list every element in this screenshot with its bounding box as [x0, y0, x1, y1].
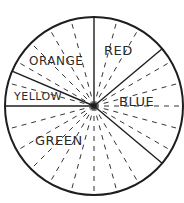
segment-label-yellow: YELLOW — [13, 90, 62, 103]
dashed-spoke — [8, 106, 94, 129]
dashed-spoke — [94, 106, 117, 192]
segment-label-red: RED — [104, 43, 133, 58]
dashed-spoke — [94, 20, 117, 106]
segment-label-green: GREEN — [35, 133, 83, 148]
segment-divider — [94, 106, 162, 163]
dashed-spoke — [71, 106, 94, 192]
segment-label-blue: BLUE — [119, 94, 154, 109]
dashed-spoke — [94, 106, 139, 183]
segment-label-orange: ORANGE — [29, 54, 83, 68]
color-wheel-diagram: RED BLUE GREEN YELLOW ORANGE — [0, 0, 184, 203]
dashed-spoke — [94, 106, 171, 151]
